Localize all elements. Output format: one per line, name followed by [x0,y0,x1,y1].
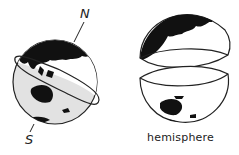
north-label: N [80,6,90,21]
caption: hemisphere [147,131,214,144]
north-axis-line [74,22,84,42]
south-axis-line [30,124,34,132]
northern-hemisphere [140,11,230,67]
south-label: S [25,132,33,147]
southern-hemisphere [140,66,228,123]
globe [10,22,110,132]
